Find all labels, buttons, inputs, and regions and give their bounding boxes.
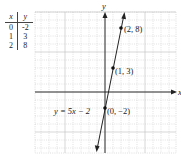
y-axis-label: y [101,1,106,11]
point-label-0-neg2: (0, −2) [107,106,130,116]
y-axis-arrow-icon [103,12,108,18]
grid-lines [35,12,176,153]
point-2-8 [119,26,123,30]
equation-label: y = 5x − 2 [53,106,91,116]
coordinate-plane: x y (0, −2) (1, 3) (2, 8) y = 5x − 2 [0,0,181,159]
plotted-line [98,17,124,147]
x-axis-label: x [177,87,181,97]
line-arrow-up-icon [121,12,126,19]
line-y-5x-2 [95,12,126,152]
data-points: (0, −2) (1, 3) (2, 8) [103,24,142,116]
point-label-2-8: (2, 8) [124,24,143,34]
point-label-1-3: (1, 3) [115,66,134,76]
